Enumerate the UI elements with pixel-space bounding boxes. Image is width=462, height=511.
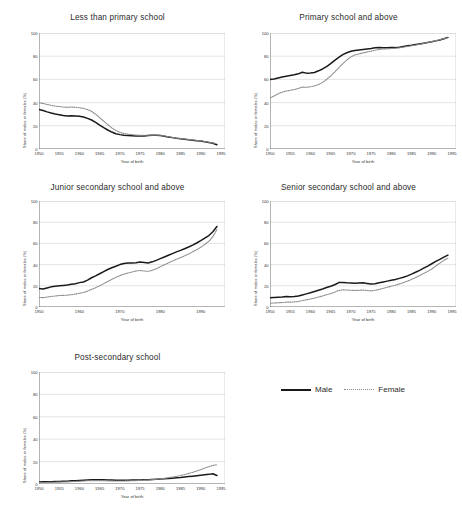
y-axis-tick-label: 100 [31,370,38,375]
x-axis-tick-label: 1965 [95,151,104,156]
plot-canvas [270,201,456,307]
x-axis-tick-label: 1950 [265,151,274,156]
x-axis-tick-label: 1980 [387,309,396,314]
legend-label-male: Male [315,385,332,394]
x-axis-tick-label: 1965 [326,309,335,314]
x-axis-tick-label: 1955 [55,151,64,156]
plot-area-wrapper: 0204060801001950195519601965197019751980… [270,33,456,149]
x-axis-tick-label: 1995 [447,151,456,156]
x-axis-tick-label: 1990 [196,486,205,491]
y-axis-tick-label: 20 [264,283,269,288]
y-axis-tick-label: 100 [262,199,269,204]
y-axis-tick-label: 40 [33,262,38,267]
x-axis-tick-label: 1970 [346,309,355,314]
x-axis-tick-label: 1960 [75,151,84,156]
x-axis-tick-label: 1980 [156,309,165,314]
x-axis-tick-label: 1990 [427,151,436,156]
y-axis-tick-label: 100 [31,199,38,204]
x-axis-tick-label: 1990 [196,309,205,314]
x-axis-tick-label: 1985 [176,486,185,491]
panel-title: Senior secondary school and above [235,183,462,192]
x-axis-label: Year of birth [270,159,456,164]
y-axis-tick-label: 60 [33,77,38,82]
panel-title: Primary school and above [235,13,462,22]
y-axis-tick-label: 100 [262,31,269,36]
x-axis-tick-label: 1965 [326,151,335,156]
x-axis-tick-label: 1950 [34,309,43,314]
legend-item-female: Female [344,385,405,394]
y-axis-label: Share of males or females (%) [22,93,27,148]
panel-primary-and-above: Primary school and above 020406080100195… [235,4,462,174]
x-axis-label: Year of birth [39,494,225,499]
plot-area-wrapper: 02040608010019501960197019801990 [39,201,225,307]
series-line-female [39,103,217,144]
y-axis-tick-label: 40 [264,100,269,105]
y-axis-label: Share of males or females (%) [253,251,258,306]
x-axis-tick-label: 1975 [367,151,376,156]
x-axis-tick-label: 1975 [136,486,145,491]
plot-canvas [39,33,225,149]
plot-canvas [39,201,225,307]
x-axis-tick-label: 1970 [346,151,355,156]
y-axis-tick-label: 40 [264,262,269,267]
x-axis-label: Year of birth [39,317,225,322]
x-axis-tick-label: 1985 [407,309,416,314]
x-axis-tick-label: 1970 [115,486,124,491]
plot-canvas [270,33,456,149]
x-axis-label: Year of birth [270,317,456,322]
panel-title: Post-secondary school [4,353,231,362]
x-axis-tick-label: 1990 [427,309,436,314]
x-axis-tick-label: 1980 [387,151,396,156]
chart-legend: Male Female [281,385,405,394]
y-axis-tick-label: 80 [33,220,38,225]
x-axis-tick-label: 1960 [75,309,84,314]
series-line-female [270,38,448,98]
series-line-male [39,226,217,289]
x-axis-tick-label: 1975 [367,309,376,314]
y-axis-label: Share of males or females (%) [253,93,258,148]
y-axis-tick-label: 60 [33,414,38,419]
panel-junior-secondary-and-above: Junior secondary school and above 020406… [4,178,231,338]
male-line-swatch-icon [281,389,311,391]
panel-senior-secondary-and-above: Senior secondary school and above 020406… [235,178,462,338]
y-axis-tick-label: 40 [33,100,38,105]
y-axis-tick-label: 80 [264,54,269,59]
x-axis-tick-label: 1950 [34,486,43,491]
x-axis-tick-label: 1995 [216,486,225,491]
x-axis-tick-label: 1950 [265,309,274,314]
x-axis-tick-label: 1965 [95,486,104,491]
y-axis-tick-label: 60 [264,241,269,246]
x-axis-tick-label: 1960 [75,486,84,491]
x-axis-tick-label: 1955 [286,309,295,314]
legend-label-female: Female [378,385,405,394]
x-axis-tick-label: 1995 [447,309,456,314]
panel-title: Junior secondary school and above [4,183,231,192]
x-axis-tick-label: 1990 [196,151,205,156]
x-axis-tick-label: 1955 [55,486,64,491]
y-axis-label: Share of males or females (%) [22,251,27,306]
plot-area-wrapper: 0204060801001950195519601965197019751980… [39,372,225,484]
panel-title: Less than primary school [4,13,231,22]
x-axis-tick-label: 1970 [115,151,124,156]
x-axis-tick-label: 1960 [306,151,315,156]
x-axis-tick-label: 1955 [286,151,295,156]
series-line-male [270,255,448,298]
female-line-swatch-icon [344,389,374,390]
y-axis-tick-label: 20 [33,283,38,288]
y-axis-label: Share of males or females (%) [22,428,27,483]
x-axis-tick-label: 1985 [407,151,416,156]
panel-post-secondary: Post-secondary school 020406080100195019… [4,345,231,511]
y-axis-tick-label: 20 [33,459,38,464]
x-axis-tick-label: 1995 [216,151,225,156]
x-axis-label: Year of birth [39,159,225,164]
x-axis-tick-label: 1980 [156,151,165,156]
y-axis-tick-label: 60 [264,77,269,82]
x-axis-tick-label: 1985 [176,151,185,156]
plot-canvas [39,372,225,484]
y-axis-tick-label: 20 [33,123,38,128]
panel-less-than-primary: Less than primary school 020406080100195… [4,4,231,174]
legend-item-male: Male [281,385,332,394]
x-axis-tick-label: 1950 [34,151,43,156]
x-axis-tick-label: 1970 [115,309,124,314]
y-axis-tick-label: 80 [33,392,38,397]
